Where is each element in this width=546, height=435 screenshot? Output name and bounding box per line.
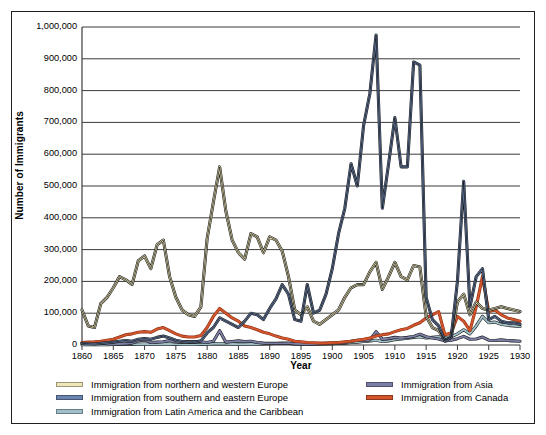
x-tick-label: 1915: [411, 351, 441, 361]
chart-legend: Immigration from northern and western Eu…: [46, 378, 516, 418]
legend-swatch: [56, 409, 83, 414]
x-tick-label: 1925: [474, 351, 504, 361]
legend-item[interactable]: Immigration from southern and eastern Eu…: [56, 392, 303, 405]
y-tick-label: 200,000: [19, 275, 77, 285]
x-axis-title: Year: [82, 360, 520, 371]
legend-swatch: [56, 382, 83, 387]
x-tick-label: 1885: [223, 351, 253, 361]
y-tick-label: 600,000: [19, 148, 77, 158]
chart-figure: Number of Immigrants Year Immigration fr…: [0, 0, 546, 435]
legend-item[interactable]: Immigration from Canada: [366, 392, 508, 405]
y-tick-label: 900,000: [19, 53, 77, 63]
x-tick-label: 1930: [505, 351, 535, 361]
y-tick-label: 700,000: [19, 116, 77, 126]
legend-label: Immigration from Asia: [401, 379, 493, 390]
legend-label: Immigration from southern and eastern Eu…: [91, 392, 288, 403]
x-tick-label: 1895: [286, 351, 316, 361]
legend-column-left: Immigration from northern and western Eu…: [56, 378, 303, 419]
legend-label: Immigration from northern and western Eu…: [91, 379, 288, 390]
x-tick-label: 1880: [192, 351, 222, 361]
legend-swatch: [56, 395, 83, 400]
x-tick-label: 1870: [130, 351, 160, 361]
y-tick-label: 400,000: [19, 212, 77, 222]
y-tick-label: 800,000: [19, 85, 77, 95]
x-tick-label: 1875: [161, 351, 191, 361]
y-tick-label: 0: [19, 339, 77, 349]
x-tick-label: 1900: [317, 351, 347, 361]
y-tick-label: 300,000: [19, 244, 77, 254]
x-axis-ticks: [82, 345, 520, 350]
legend-label: Immigration from Canada: [401, 392, 508, 403]
x-tick-label: 1910: [380, 351, 410, 361]
legend-label: Immigration from Latin America and the C…: [91, 406, 303, 417]
legend-swatch: [366, 382, 393, 387]
legend-swatch: [366, 395, 393, 400]
x-tick-label: 1905: [349, 351, 379, 361]
y-tick-label: 500,000: [19, 180, 77, 190]
legend-item[interactable]: Immigration from Latin America and the C…: [56, 405, 303, 418]
legend-item[interactable]: Immigration from Asia: [366, 378, 508, 391]
y-tick-label: 100,000: [19, 307, 77, 317]
legend-item[interactable]: Immigration from northern and western Eu…: [56, 378, 303, 391]
y-tick-label: 1,000,000: [19, 21, 77, 31]
x-tick-label: 1865: [98, 351, 128, 361]
x-tick-label: 1920: [442, 351, 472, 361]
x-tick-label: 1860: [67, 351, 97, 361]
legend-column-right: Immigration from AsiaImmigration from Ca…: [366, 378, 508, 405]
x-tick-label: 1890: [255, 351, 285, 361]
